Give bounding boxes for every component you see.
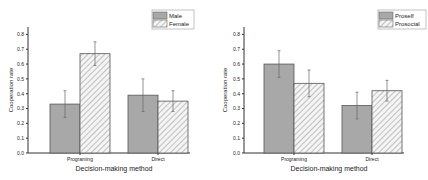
y-tick-label: 0.3 [233, 105, 240, 111]
x-tick-label: Programing [281, 156, 307, 162]
legend: MaleFemale [152, 10, 194, 29]
y-tick-label: 0.7 [233, 46, 240, 52]
y-tick-label: 0.0 [233, 150, 240, 156]
bar-female-programing [80, 54, 110, 153]
y-tick-label: 0.7 [17, 46, 24, 52]
y-tick-label: 0.0 [17, 150, 24, 156]
y-tick-label: 0.5 [233, 76, 240, 82]
x-tick-label: Direct [365, 156, 379, 162]
chart-right-orientation: 0.00.10.20.30.40.50.60.70.8Cooperation r… [214, 0, 428, 180]
y-tick-label: 0.1 [233, 135, 240, 141]
legend: ProselfProsocial [378, 10, 426, 29]
y-tick-label: 0.1 [17, 135, 24, 141]
bar-chart-gender: 0.00.10.20.30.40.50.60.70.8Cooperation r… [0, 0, 214, 180]
y-tick-label: 0.2 [17, 120, 24, 126]
y-tick-label: 0.4 [233, 91, 240, 97]
y-tick-label: 0.6 [233, 61, 240, 67]
y-tick-label: 0.6 [17, 61, 24, 67]
legend-swatch [379, 12, 393, 19]
x-tick-label: Direct [151, 156, 165, 162]
legend-swatch [153, 12, 167, 19]
y-axis-label: Cooperation rate [222, 67, 228, 112]
legend-swatch [153, 20, 167, 27]
x-tick-label: Programing [67, 156, 93, 162]
x-axis-label: Decision-making method [75, 165, 152, 173]
y-tick-label: 0.3 [17, 105, 24, 111]
chart-left-gender: 0.00.10.20.30.40.50.60.70.8Cooperation r… [0, 0, 214, 180]
x-axis-label: Decision-making method [290, 165, 367, 173]
y-tick-label: 0.8 [17, 31, 24, 37]
y-tick-label: 0.2 [233, 120, 240, 126]
bar-chart-social-orientation: 0.00.10.20.30.40.50.60.70.8Cooperation r… [214, 0, 428, 180]
legend-label: Male [169, 13, 183, 19]
y-tick-label: 0.5 [17, 76, 24, 82]
y-axis-label: Cooperation rate [8, 67, 14, 112]
legend-label: Female [169, 21, 190, 27]
legend-swatch [379, 20, 393, 27]
legend-label: Proself [395, 13, 414, 19]
legend-label: Prosocial [395, 21, 420, 27]
y-tick-label: 0.4 [17, 91, 24, 97]
y-tick-label: 0.8 [233, 31, 240, 37]
